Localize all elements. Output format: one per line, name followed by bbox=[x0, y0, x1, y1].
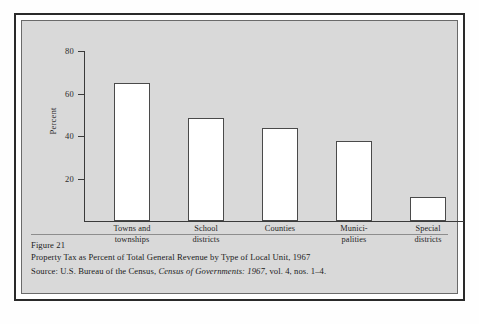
bar-slot bbox=[114, 21, 150, 232]
source-suffix: , vol. 4, nos. 1–4. bbox=[265, 266, 326, 276]
source-prefix: Source: U.S. Bureau of the Census, bbox=[31, 266, 158, 276]
bar-slot bbox=[410, 21, 446, 232]
y-tick-mark bbox=[78, 51, 84, 52]
bar-1[interactable] bbox=[114, 83, 150, 221]
bar-5[interactable] bbox=[410, 197, 446, 221]
bar-slot bbox=[336, 21, 372, 232]
y-tick-mark bbox=[78, 179, 84, 180]
caption-divider bbox=[31, 234, 448, 235]
y-tick-label: 80 bbox=[44, 46, 74, 56]
x-tick-label-line: Special bbox=[385, 224, 471, 235]
bar-slot bbox=[262, 21, 298, 232]
plot-area: 20406080 Percent Towns andtownshipsSchoo… bbox=[22, 21, 457, 232]
y-axis-line bbox=[84, 51, 85, 222]
y-tick-mark bbox=[78, 136, 84, 137]
bar-slot bbox=[188, 21, 224, 232]
bar-chart: 20406080 Percent Towns andtownshipsSchoo… bbox=[22, 21, 457, 232]
bar-2[interactable] bbox=[188, 118, 224, 221]
y-tick-label: 20 bbox=[44, 174, 74, 184]
figure-caption: Figure 21 Property Tax as Percent of Tot… bbox=[31, 234, 448, 278]
y-axis-title: Percent bbox=[48, 108, 58, 135]
figure-panel: 20406080 Percent Towns andtownshipsSchoo… bbox=[21, 20, 458, 294]
bar-3[interactable] bbox=[262, 128, 298, 222]
y-tick-mark bbox=[78, 94, 84, 95]
bar-4[interactable] bbox=[336, 141, 372, 221]
figure-number: Figure 21 bbox=[31, 239, 448, 251]
figure-source: Source: U.S. Bureau of the Census, Censu… bbox=[31, 265, 448, 277]
source-publication: Census of Governments: 1967 bbox=[158, 266, 265, 276]
figure-outer-frame: 20406080 Percent Towns andtownshipsSchoo… bbox=[14, 13, 465, 301]
figure-page: 20406080 Percent Towns andtownshipsSchoo… bbox=[0, 0, 479, 324]
y-tick-label: 60 bbox=[44, 89, 74, 99]
figure-title: Property Tax as Percent of Total General… bbox=[31, 251, 448, 263]
